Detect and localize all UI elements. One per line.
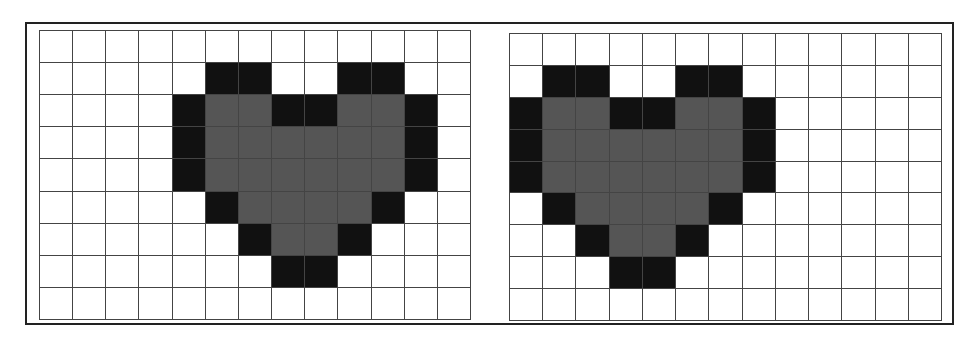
empty-cell <box>743 257 776 289</box>
outline-cell <box>676 225 709 257</box>
outline-cell <box>338 224 371 256</box>
empty-cell <box>305 63 338 95</box>
empty-cell <box>206 288 239 320</box>
empty-cell <box>338 31 371 63</box>
empty-cell <box>809 257 842 289</box>
empty-cell <box>106 256 139 288</box>
empty-cell <box>173 31 206 63</box>
empty-cell <box>876 289 909 321</box>
empty-cell <box>438 127 471 159</box>
empty-cell <box>842 34 875 66</box>
fill-cell <box>610 193 643 225</box>
empty-cell <box>106 127 139 159</box>
empty-cell <box>106 63 139 95</box>
empty-cell <box>776 98 809 130</box>
outline-cell <box>272 256 305 288</box>
fill-cell <box>676 130 709 162</box>
outline-cell <box>743 130 776 162</box>
empty-cell <box>239 288 272 320</box>
empty-cell <box>372 256 405 288</box>
empty-cell <box>610 34 643 66</box>
empty-cell <box>510 225 543 257</box>
empty-cell <box>139 31 172 63</box>
empty-cell <box>776 289 809 321</box>
empty-cell <box>106 288 139 320</box>
empty-cell <box>139 95 172 127</box>
fill-cell <box>272 127 305 159</box>
empty-cell <box>73 159 106 191</box>
empty-cell <box>909 193 942 225</box>
empty-cell <box>305 288 338 320</box>
fill-cell <box>643 225 676 257</box>
empty-cell <box>543 34 576 66</box>
outline-cell <box>372 192 405 224</box>
empty-cell <box>510 257 543 289</box>
empty-cell <box>40 63 73 95</box>
outline-cell <box>676 66 709 98</box>
empty-cell <box>106 95 139 127</box>
empty-cell <box>40 127 73 159</box>
fill-cell <box>643 130 676 162</box>
empty-cell <box>909 66 942 98</box>
outline-cell <box>173 95 206 127</box>
empty-cell <box>405 31 438 63</box>
empty-cell <box>239 256 272 288</box>
empty-cell <box>676 289 709 321</box>
empty-cell <box>73 31 106 63</box>
empty-cell <box>776 66 809 98</box>
empty-cell <box>272 31 305 63</box>
empty-cell <box>106 31 139 63</box>
empty-cell <box>438 63 471 95</box>
empty-cell <box>776 130 809 162</box>
outline-cell <box>173 159 206 191</box>
empty-cell <box>876 162 909 194</box>
empty-cell <box>576 289 609 321</box>
empty-cell <box>73 127 106 159</box>
empty-cell <box>139 224 172 256</box>
empty-cell <box>139 192 172 224</box>
empty-cell <box>40 256 73 288</box>
outline-cell <box>405 159 438 191</box>
empty-cell <box>909 289 942 321</box>
empty-cell <box>909 257 942 289</box>
fill-cell <box>610 162 643 194</box>
empty-cell <box>676 34 709 66</box>
outline-cell <box>305 95 338 127</box>
empty-cell <box>809 289 842 321</box>
empty-cell <box>909 130 942 162</box>
empty-cell <box>743 193 776 225</box>
fill-cell <box>610 130 643 162</box>
outline-cell <box>239 224 272 256</box>
empty-cell <box>842 162 875 194</box>
empty-cell <box>809 98 842 130</box>
outline-cell <box>338 63 371 95</box>
empty-cell <box>40 192 73 224</box>
outline-cell <box>576 225 609 257</box>
empty-cell <box>809 193 842 225</box>
empty-cell <box>510 289 543 321</box>
outline-cell <box>543 66 576 98</box>
fill-cell <box>576 98 609 130</box>
outline-cell <box>709 66 742 98</box>
empty-cell <box>206 256 239 288</box>
empty-cell <box>73 224 106 256</box>
empty-cell <box>40 224 73 256</box>
outline-cell <box>576 66 609 98</box>
fill-cell <box>272 192 305 224</box>
fill-cell <box>239 127 272 159</box>
empty-cell <box>876 257 909 289</box>
empty-cell <box>173 63 206 95</box>
empty-cell <box>842 289 875 321</box>
empty-cell <box>510 66 543 98</box>
fill-cell <box>709 130 742 162</box>
empty-cell <box>842 130 875 162</box>
empty-cell <box>876 66 909 98</box>
outline-cell <box>743 162 776 194</box>
empty-cell <box>305 31 338 63</box>
empty-cell <box>842 98 875 130</box>
outline-cell <box>206 192 239 224</box>
empty-cell <box>743 66 776 98</box>
empty-cell <box>776 225 809 257</box>
outline-cell <box>272 95 305 127</box>
fill-cell <box>372 127 405 159</box>
